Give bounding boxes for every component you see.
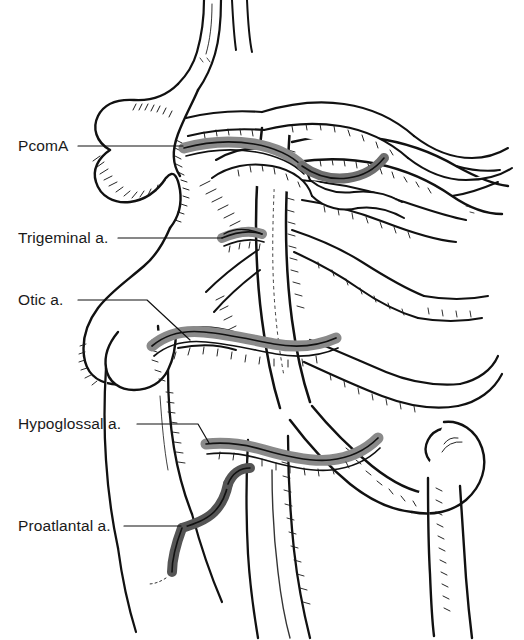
- label-trigeminal-artery: Trigeminal a.: [18, 230, 108, 246]
- anatomical-figure: PcomA Trigeminal a. Otic a. Hypoglossal …: [0, 0, 524, 640]
- anterior-cerebral-artery: [178, 0, 252, 90]
- cerebellar-hatching: [200, 181, 240, 330]
- common-carotid-artery: [247, 436, 311, 638]
- otic-artery-vessel: [152, 332, 338, 367]
- label-hypoglossal-artery: Hypoglossal a.: [18, 416, 121, 432]
- label-otic-artery: Otic a.: [18, 292, 64, 308]
- internal-carotid-artery-siphon: [93, 84, 198, 228]
- cervical-internal-carotid-artery: [105, 368, 193, 548]
- pontine-branches: [292, 230, 488, 321]
- anterior-inferior-cerebellar-artery: [304, 340, 502, 412]
- posterior-cerebral-crossing: [186, 111, 264, 138]
- vessel-illustration: [0, 0, 524, 640]
- label-pcoma: PcomA: [18, 138, 68, 154]
- internal-carotid-artery-arch: [79, 228, 176, 390]
- vertebral-artery: [290, 406, 484, 638]
- lateral-pontine-branch: [206, 250, 260, 312]
- label-proatlantal-artery: Proatlantal a.: [18, 518, 111, 534]
